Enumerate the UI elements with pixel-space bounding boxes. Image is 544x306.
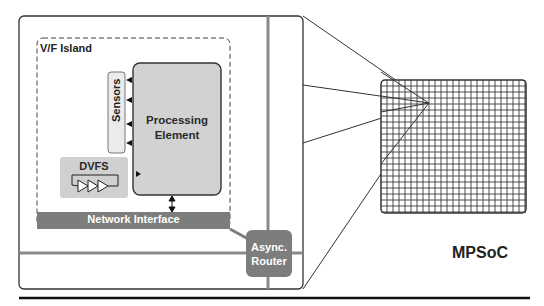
mpsoc-grid <box>381 80 526 213</box>
network-interface-label: Network Interface <box>37 213 230 225</box>
dvfs-label: DVFS <box>60 160 128 172</box>
pe-label-line2: Element <box>133 128 221 143</box>
router-label: Async. Router <box>246 240 292 268</box>
sensors-label: Sensors <box>110 98 122 122</box>
router-label-line2: Router <box>246 254 292 268</box>
mpsoc-label: MPSoC <box>420 244 540 262</box>
pe-label-line1: Processing <box>133 113 221 128</box>
vf-island-label: V/F Island <box>40 42 92 54</box>
router-label-line1: Async. <box>246 240 292 254</box>
processing-element-label: Processing Element <box>133 113 221 143</box>
